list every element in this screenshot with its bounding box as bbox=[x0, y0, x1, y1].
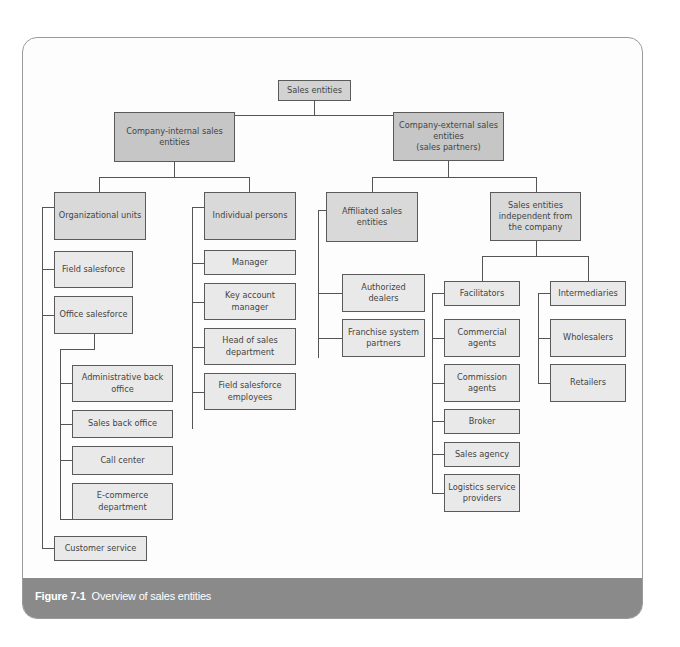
node-key-account-manager: Key account manager bbox=[204, 283, 296, 320]
node-label: Logistics service providers bbox=[448, 482, 516, 504]
connector bbox=[432, 421, 444, 422]
node-commercial-agents: Commercial agents bbox=[444, 319, 520, 357]
node-wholesalers: Wholesalers bbox=[550, 319, 626, 357]
connector bbox=[538, 383, 550, 384]
node-label: Sales entities bbox=[287, 85, 342, 96]
node-logistics-providers: Logistics service providers bbox=[444, 474, 520, 512]
node-label: Commission agents bbox=[448, 372, 516, 394]
node-manager: Manager bbox=[204, 250, 296, 275]
node-label: Intermediaries bbox=[558, 288, 618, 299]
connector bbox=[192, 263, 204, 264]
connector bbox=[482, 256, 483, 281]
connector bbox=[432, 454, 444, 455]
node-individual-persons: Individual persons bbox=[204, 192, 296, 240]
node-label: Company-internal sales entities bbox=[118, 126, 231, 148]
connector bbox=[432, 293, 444, 294]
connector bbox=[482, 256, 589, 257]
node-label: Organizational units bbox=[59, 210, 141, 221]
node-label: Sales entities independent from the comp… bbox=[494, 200, 577, 233]
connector bbox=[60, 349, 61, 519]
connector bbox=[432, 493, 444, 494]
connector bbox=[60, 519, 72, 520]
connector bbox=[192, 392, 204, 393]
connector bbox=[538, 293, 550, 294]
node-label: Customer service bbox=[65, 543, 137, 554]
node-label: Authorized dealers bbox=[346, 282, 421, 304]
node-company-external: Company-external sales entities(sales pa… bbox=[393, 112, 504, 161]
node-label: Head of sales department bbox=[208, 335, 292, 357]
node-label: Retailers bbox=[570, 377, 606, 388]
connector bbox=[192, 302, 204, 303]
connector bbox=[448, 161, 449, 177]
node-customer-service: Customer service bbox=[54, 536, 147, 561]
node-call-center: Call center bbox=[72, 446, 173, 475]
connector bbox=[99, 177, 250, 178]
figure-caption: Figure 7-1Overview of sales entities bbox=[35, 590, 211, 602]
node-retailers: Retailers bbox=[550, 364, 626, 402]
node-facilitators: Facilitators bbox=[444, 281, 520, 306]
node-label: Field salesforce bbox=[62, 264, 125, 275]
node-label: Wholesalers bbox=[563, 332, 613, 343]
connector bbox=[588, 256, 589, 281]
connector bbox=[60, 424, 72, 425]
node-commission-agents: Commission agents bbox=[444, 364, 520, 402]
connector bbox=[318, 210, 319, 358]
connector bbox=[174, 162, 175, 177]
node-sales-entities: Sales entities bbox=[278, 80, 351, 101]
connector bbox=[372, 177, 373, 192]
node-label: Key account manager bbox=[208, 290, 292, 312]
figure-frame: Sales entities Company-internal sales en… bbox=[22, 37, 643, 619]
node-field-salesforce: Field salesforce bbox=[54, 251, 133, 288]
connector bbox=[192, 207, 193, 429]
node-sales-agency: Sales agency bbox=[444, 442, 520, 467]
connector bbox=[536, 177, 537, 192]
connector bbox=[538, 338, 550, 339]
node-office-salesforce: Office salesforce bbox=[54, 296, 133, 334]
node-label: Field salesforce employees bbox=[208, 380, 292, 402]
node-label: Office salesforce bbox=[60, 309, 128, 320]
connector bbox=[42, 315, 54, 316]
connector bbox=[249, 177, 250, 192]
connector bbox=[318, 293, 342, 294]
connector bbox=[60, 349, 95, 350]
node-company-internal: Company-internal sales entities bbox=[114, 112, 235, 162]
connector bbox=[318, 210, 326, 211]
node-organizational-units: Organizational units bbox=[54, 192, 146, 240]
connector bbox=[536, 241, 537, 256]
node-label: Administrative back office bbox=[76, 372, 169, 394]
connector bbox=[372, 177, 537, 178]
connector bbox=[60, 383, 72, 384]
node-label: Sales agency bbox=[455, 449, 509, 460]
connector bbox=[94, 334, 95, 349]
node-label: E-commerce department bbox=[76, 490, 169, 512]
figure-number: Figure 7-1 bbox=[35, 590, 86, 602]
node-broker: Broker bbox=[444, 409, 520, 434]
connector bbox=[318, 338, 342, 339]
connector bbox=[192, 207, 204, 208]
node-label: Franchise system partners bbox=[346, 327, 421, 349]
node-label: Company-external sales entities bbox=[397, 120, 500, 142]
node-label: Manager bbox=[232, 257, 268, 268]
node-label: Commercial agents bbox=[448, 327, 516, 349]
node-label: Broker bbox=[469, 416, 496, 427]
connector bbox=[42, 207, 43, 549]
node-sales-back-office: Sales back office bbox=[72, 410, 173, 438]
node-ecommerce: E-commerce department bbox=[72, 483, 173, 520]
connector bbox=[60, 460, 72, 461]
figure-title: Overview of sales entities bbox=[92, 590, 212, 602]
node-intermediaries: Intermediaries bbox=[550, 281, 626, 306]
node-label: (sales partners) bbox=[416, 142, 481, 153]
node-head-of-sales: Head of sales department bbox=[204, 328, 296, 365]
node-label: Sales back office bbox=[88, 418, 157, 429]
node-franchise-partners: Franchise system partners bbox=[342, 319, 425, 357]
connector bbox=[432, 293, 433, 493]
connector bbox=[192, 347, 204, 348]
connector bbox=[42, 207, 54, 208]
node-label: Individual persons bbox=[213, 210, 288, 221]
connector bbox=[42, 548, 54, 549]
connector bbox=[432, 338, 444, 339]
figure-caption-bar: Figure 7-1Overview of sales entities bbox=[23, 578, 642, 618]
connector bbox=[99, 177, 100, 192]
node-affiliated: Affiliated sales entities bbox=[326, 192, 418, 242]
node-admin-back-office: Administrative back office bbox=[72, 365, 173, 402]
